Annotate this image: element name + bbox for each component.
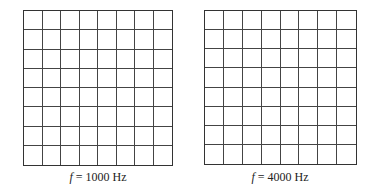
grid-cell — [98, 11, 117, 30]
grid-cell — [224, 30, 243, 49]
grid-cell — [205, 145, 224, 164]
grid-cell — [281, 30, 300, 49]
grid-cell — [154, 88, 173, 107]
grid-cell — [43, 88, 62, 107]
grid-right — [204, 10, 357, 165]
grid-cell — [117, 69, 136, 88]
grid-cell — [281, 88, 300, 107]
grid-cell — [205, 126, 224, 145]
grid-cell — [117, 50, 136, 69]
grid-cell — [80, 30, 99, 49]
grid-cell — [299, 30, 318, 49]
grid-cell — [281, 49, 300, 68]
grid-cell — [61, 107, 80, 126]
caption-left: f = 1000 Hz — [58, 170, 138, 185]
grid-cell — [80, 50, 99, 69]
grid-cell — [135, 11, 154, 30]
grid-cell — [117, 127, 136, 146]
grid-cell — [135, 30, 154, 49]
grid-cell — [117, 146, 136, 165]
grid-cell — [281, 145, 300, 164]
grid-cell — [337, 30, 356, 49]
grid-cell — [243, 145, 262, 164]
grid-cell — [98, 69, 117, 88]
grid-cell — [281, 11, 300, 30]
grid-cell — [337, 88, 356, 107]
grid-cell — [337, 126, 356, 145]
grid-cell — [243, 11, 262, 30]
grid-cell — [337, 49, 356, 68]
grid-cell — [43, 11, 62, 30]
grid-cell — [98, 127, 117, 146]
grid-cell — [154, 50, 173, 69]
grid-cell — [337, 11, 356, 30]
grid-cell — [24, 69, 43, 88]
grid-cell — [262, 11, 281, 30]
grid-cell — [299, 145, 318, 164]
grid-cell — [80, 88, 99, 107]
grid-cell — [205, 30, 224, 49]
grid-cell — [318, 126, 337, 145]
grid-cell — [299, 126, 318, 145]
grid-cell — [262, 49, 281, 68]
grid-cell — [61, 69, 80, 88]
grid-cell — [243, 49, 262, 68]
grid-cell — [299, 68, 318, 87]
grid-cell — [135, 88, 154, 107]
grid-cell — [98, 146, 117, 165]
grid-cell — [43, 146, 62, 165]
grid-cell — [80, 11, 99, 30]
grid-cell — [43, 69, 62, 88]
grid-cell — [154, 127, 173, 146]
grid-cell — [98, 88, 117, 107]
grid-cell — [243, 126, 262, 145]
frequency-value: = 4000 Hz — [255, 170, 309, 184]
grid-cell — [262, 107, 281, 126]
grid-cell — [98, 50, 117, 69]
grid-cell — [135, 127, 154, 146]
grid-cell — [262, 88, 281, 107]
grid-cell — [61, 50, 80, 69]
frequency-value: = 1000 Hz — [73, 170, 127, 184]
grid-cell — [117, 11, 136, 30]
grid-cell — [243, 68, 262, 87]
grid-cell — [224, 88, 243, 107]
grid-cell — [262, 68, 281, 87]
grid-cell — [61, 88, 80, 107]
grid-cell — [117, 30, 136, 49]
grid-cell — [205, 88, 224, 107]
grid-cell — [117, 88, 136, 107]
grid-cell — [318, 30, 337, 49]
grid-cell — [205, 107, 224, 126]
grid-cell — [299, 49, 318, 68]
grid-cell — [205, 49, 224, 68]
caption-right: f = 4000 Hz — [240, 170, 320, 185]
grid-cell — [24, 30, 43, 49]
grid-cell — [243, 30, 262, 49]
grid-cell — [61, 146, 80, 165]
grid-cell — [61, 127, 80, 146]
grid-cell — [262, 126, 281, 145]
grid-cell — [24, 88, 43, 107]
grid-cell — [318, 68, 337, 87]
grid-cell — [24, 50, 43, 69]
grid-cell — [224, 145, 243, 164]
grid-cell — [24, 11, 43, 30]
grid-cell — [224, 68, 243, 87]
grid-cell — [318, 11, 337, 30]
grid-cell — [205, 68, 224, 87]
grid-cell — [318, 49, 337, 68]
grid-cell — [24, 107, 43, 126]
grid-cell — [80, 127, 99, 146]
grid-cell — [318, 107, 337, 126]
grid-cell — [80, 146, 99, 165]
grid-cell — [154, 146, 173, 165]
grid-cell — [61, 30, 80, 49]
grid-cell — [262, 145, 281, 164]
grid-cell — [154, 69, 173, 88]
grid-cell — [43, 107, 62, 126]
grid-cell — [337, 107, 356, 126]
grid-cell — [80, 107, 99, 126]
grid-cell — [135, 107, 154, 126]
grid-cell — [98, 107, 117, 126]
